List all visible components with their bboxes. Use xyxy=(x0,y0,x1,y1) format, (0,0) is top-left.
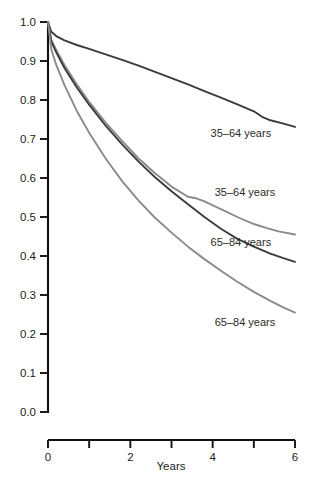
y-axis-ticks xyxy=(40,22,48,412)
series-label-3: 65–84 years xyxy=(215,316,276,328)
x-axis: 0246 Years xyxy=(45,440,298,472)
x-tick-label: 2 xyxy=(127,451,133,463)
series-label-1: 35–64 years xyxy=(215,186,276,198)
x-tick-label: 0 xyxy=(45,451,51,463)
y-tick-label: 0.6 xyxy=(20,172,36,184)
y-tick-label: 0.9 xyxy=(20,55,36,67)
y-tick-label: 0.2 xyxy=(20,328,36,340)
curve-3 xyxy=(48,22,295,313)
y-axis-tick-labels: 0.00.10.20.30.40.50.60.70.80.91.0 xyxy=(20,16,37,418)
y-tick-label: 0.1 xyxy=(20,367,36,379)
y-tick-label: 1.0 xyxy=(20,16,36,28)
figure-container: 0.00.10.20.30.40.50.60.70.80.91.0 0246 Y… xyxy=(0,0,311,481)
y-tick-label: 0.5 xyxy=(20,211,36,223)
x-tick-label: 6 xyxy=(292,451,298,463)
x-tick-label: 4 xyxy=(209,451,216,463)
y-tick-label: 0.7 xyxy=(20,133,36,145)
series-label-0: 35–64 years xyxy=(211,127,272,139)
series-label-2: 65–84 years xyxy=(211,236,272,248)
x-axis-ticks xyxy=(48,440,295,448)
y-axis: 0.00.10.20.30.40.50.60.70.80.91.0 xyxy=(20,16,48,418)
x-axis-title: Years xyxy=(157,460,186,472)
y-tick-label: 0.3 xyxy=(20,289,36,301)
curve-0 xyxy=(48,22,295,127)
y-tick-label: 0.4 xyxy=(20,250,37,262)
survival-curve-chart: 0.00.10.20.30.40.50.60.70.80.91.0 0246 Y… xyxy=(0,0,311,481)
curve-series-group xyxy=(48,22,295,313)
y-tick-label: 0.0 xyxy=(20,406,36,418)
y-tick-label: 0.8 xyxy=(20,94,36,106)
